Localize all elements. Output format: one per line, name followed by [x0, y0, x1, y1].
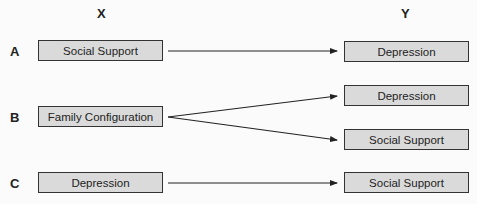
arrow-b-1 [168, 96, 337, 117]
arrow-b-2 [168, 117, 337, 140]
arrow-layer [0, 0, 477, 204]
